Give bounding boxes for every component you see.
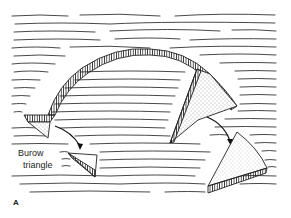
burow-label-line1: Burow [18,148,44,158]
burow-triangle-source [24,115,55,138]
burow-triangle-excised [68,153,97,177]
burow-label-line2: triangle [23,160,53,170]
arrow-icon [207,117,234,146]
flap-illustration [0,0,291,218]
arrow-icon [55,126,83,150]
panel-label: A [13,198,19,207]
